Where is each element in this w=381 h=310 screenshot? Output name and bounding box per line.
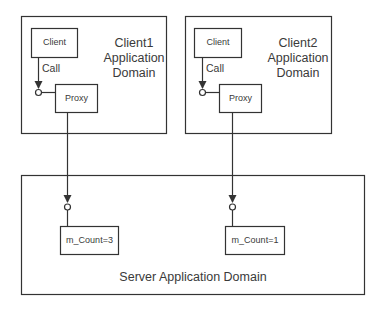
client1-proxy-label: Proxy	[55, 93, 98, 103]
client1-proxy-interface-icon	[36, 90, 42, 96]
server-object-1-label: m_Count=3	[60, 235, 119, 245]
client2-domain-title: Client2 Application Domain	[263, 36, 333, 81]
client2-call-label: Call	[206, 62, 224, 74]
client1-client-label: Client	[31, 37, 78, 47]
client1-call-label: Call	[42, 62, 60, 74]
server-domain-title: Server Application Domain	[21, 270, 365, 285]
client2-proxy-label: Proxy	[219, 93, 262, 103]
client2-client-label: Client	[194, 37, 242, 47]
object1-interface-icon	[65, 204, 71, 210]
client1-domain-title: Client1 Application Domain	[100, 36, 168, 81]
client2-proxy-interface-icon	[200, 90, 206, 96]
server-object-2-label: m_Count=1	[225, 235, 285, 245]
object2-interface-icon	[230, 204, 236, 210]
